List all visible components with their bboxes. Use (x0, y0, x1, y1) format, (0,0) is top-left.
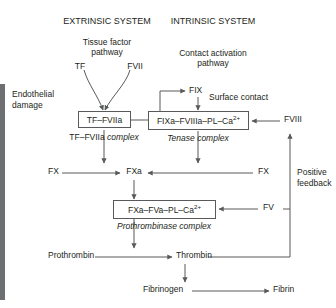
label-tf-fviia-complex-plain: TF–FVIIa (69, 132, 104, 142)
box-tf-fviia: TF–FVIIa (78, 111, 131, 128)
label-positive-feedback-line2: feedback (297, 179, 332, 189)
title-extrinsic-system: EXTRINSIC SYSTEM (63, 16, 151, 26)
tissue-factor-pathway-line2: pathway (91, 48, 123, 58)
label-prothrombinase-complex: Prothrombinase complex (117, 222, 211, 232)
label-endothelial-damage-line1: Endothelial (12, 90, 54, 100)
box-prothrombinase-complex: FXa–FVa–PL–Ca2+ (113, 200, 216, 219)
label-fx-left: FX (48, 167, 59, 177)
contact-activation-pathway-line2: pathway (197, 59, 229, 69)
box-prothrombinase-text: FXa–FVa–PL–Ca2+ (128, 205, 201, 215)
label-tf: TF (75, 62, 85, 72)
label-thrombin: Thrombin (176, 251, 212, 261)
arrow-tf-to-tf-fviia (84, 70, 103, 110)
label-tf-fviia-complex-italic: complex (107, 132, 139, 142)
cascade-arrows-layer (0, 0, 336, 308)
label-tf-fviia-complex: TF–FVIIa complex (69, 133, 138, 143)
label-endothelial-damage-line2: damage (12, 101, 43, 111)
label-positive-feedback-line1: Positive (297, 168, 327, 178)
label-prothrombin: Prothrombin (48, 251, 94, 261)
label-fix: FIX (189, 86, 202, 96)
arrow-fvii-to-tf-fviia (105, 70, 130, 110)
box-tenase-complex: FIXa–FVIIIa–PL–Ca2+ (148, 111, 249, 130)
title-intrinsic-system: INTRINSIC SYSTEM (171, 16, 256, 26)
box-tf-fviia-text: TF–FVIIa (87, 115, 122, 125)
label-fviii: FVIII (284, 115, 302, 125)
label-tenase-complex: Tenase complex (167, 134, 229, 144)
label-fx-right: FX (258, 167, 269, 177)
label-fvii: FVII (127, 62, 143, 72)
label-fv: FV (263, 203, 274, 213)
label-fxa: FXa (126, 167, 142, 177)
label-fibrinogen: Fibrinogen (143, 285, 183, 295)
label-surface-contact: Surface contact (209, 93, 268, 103)
label-fibrin: Fibrin (273, 285, 294, 295)
box-tenase-text: FIXa–FVIIIa–PL–Ca2+ (157, 116, 240, 126)
